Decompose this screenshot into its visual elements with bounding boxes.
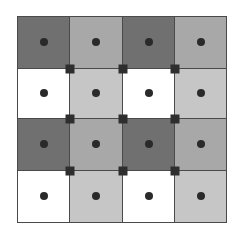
- center-dot-icon: [145, 192, 153, 200]
- center-dot-icon: [40, 192, 48, 200]
- center-dot-icon: [145, 38, 153, 46]
- intersection-marker-icon: [65, 114, 74, 123]
- intersection-marker-icon: [118, 114, 127, 123]
- intersection-marker-icon: [118, 166, 127, 175]
- center-dot-icon: [40, 38, 48, 46]
- intersection-marker-icon: [118, 64, 127, 73]
- center-dot-icon: [92, 89, 100, 97]
- center-dot-icon: [197, 89, 205, 97]
- intersection-marker-icon: [170, 64, 179, 73]
- center-dot-icon: [145, 140, 153, 148]
- center-dot-icon: [40, 140, 48, 148]
- center-dot-icon: [197, 38, 205, 46]
- center-dot-icon: [92, 38, 100, 46]
- intersection-marker-icon: [65, 64, 74, 73]
- center-dot-icon: [92, 192, 100, 200]
- center-dot-icon: [197, 192, 205, 200]
- center-dot-icon: [92, 140, 100, 148]
- intersection-marker-icon: [65, 166, 74, 175]
- center-dot-icon: [40, 89, 48, 97]
- center-dot-icon: [197, 140, 205, 148]
- center-dot-icon: [145, 89, 153, 97]
- intersection-marker-icon: [170, 166, 179, 175]
- intersection-marker-icon: [170, 114, 179, 123]
